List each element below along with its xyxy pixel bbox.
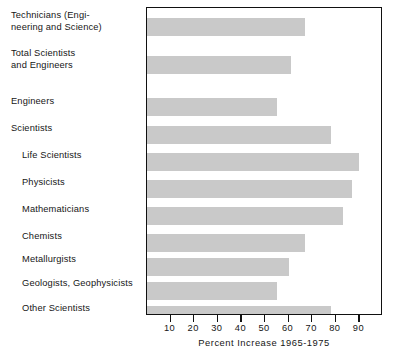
x-axis-tick-label: 70	[306, 323, 317, 334]
x-axis: Percent Increase 1965-1975 1020304050607…	[146, 315, 382, 359]
bar	[147, 126, 331, 144]
bar	[147, 18, 305, 36]
x-axis-tick-label: 20	[188, 323, 199, 334]
plot-area	[146, 7, 382, 315]
x-axis-tick	[170, 315, 171, 322]
bar-chart-figure: Technicians (Engi- neering and Science) …	[0, 0, 407, 359]
bar	[147, 56, 291, 74]
bar	[147, 258, 289, 276]
category-label-total-scientists: Total Scientists and Engineers	[11, 48, 146, 71]
bar	[147, 180, 352, 198]
category-label-technicians: Technicians (Engi- neering and Science)	[11, 10, 146, 33]
x-axis-tick-label: 50	[258, 323, 269, 334]
category-label-life-scientists: Life Scientists	[22, 150, 146, 162]
bar	[147, 306, 331, 315]
x-axis-tick	[240, 315, 241, 322]
x-axis-tick	[217, 315, 218, 322]
bar	[147, 282, 277, 300]
x-axis-tick	[335, 315, 336, 322]
category-label-geologists: Geologists, Geophysicists	[22, 278, 146, 290]
x-axis-tick	[358, 315, 359, 322]
x-axis-tick-label: 40	[235, 323, 246, 334]
category-label-other-scientists: Other Scientists	[22, 303, 146, 315]
bar	[147, 153, 359, 171]
bar	[147, 234, 305, 252]
x-axis-tick	[288, 315, 289, 322]
bar	[147, 98, 277, 116]
category-label-column: Technicians (Engi- neering and Science) …	[0, 0, 146, 315]
x-axis-tick	[311, 315, 312, 322]
category-label-metallurgists: Metallurgists	[22, 254, 146, 266]
category-label-chemists: Chemists	[22, 231, 146, 243]
x-axis-tick-label: 60	[282, 323, 293, 334]
bar	[147, 207, 343, 225]
x-axis-title: Percent Increase 1965-1975	[146, 337, 382, 348]
category-label-engineers: Engineers	[11, 96, 146, 108]
x-axis-tick-label: 80	[329, 323, 340, 334]
x-axis-tick-label: 10	[164, 323, 175, 334]
category-label-scientists: Scientists	[11, 123, 146, 135]
x-axis-tick-label: 30	[211, 323, 222, 334]
x-axis-tick	[193, 315, 194, 322]
category-label-mathematicians: Mathematicians	[22, 204, 146, 216]
category-label-physicists: Physicists	[22, 177, 146, 189]
x-axis-tick-label: 90	[353, 323, 364, 334]
x-axis-tick	[264, 315, 265, 322]
